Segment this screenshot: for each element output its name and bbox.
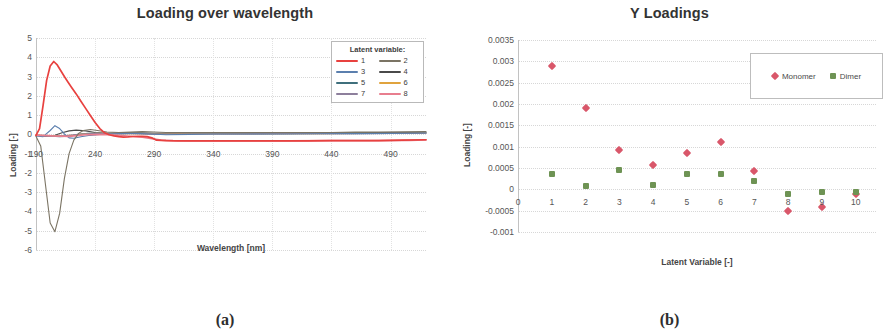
data-point-dimer-4	[650, 182, 656, 188]
legend-line-swatch-icon	[379, 93, 401, 95]
y-tick-label: 4	[27, 52, 36, 62]
legend-label: 7	[361, 89, 365, 98]
data-point-dimer-5	[684, 171, 690, 177]
x-axis-title-b: Latent Variable [-]	[518, 257, 876, 267]
legend-label: 4	[404, 67, 408, 76]
legend-label-dimer: Dimer	[840, 72, 861, 81]
data-point-dimer-3	[616, 167, 622, 173]
y-tick-label: 0	[509, 184, 518, 194]
data-point-dimer-2	[583, 183, 589, 189]
x-tick-label: 10	[851, 197, 860, 207]
y-tick-label: 0	[27, 129, 36, 139]
panel-a-loading-over-wavelength: Loading over wavelength Loading [-] 5432…	[0, 0, 450, 335]
gridline-horizontal	[518, 104, 876, 105]
y-tick-label: -3	[24, 187, 36, 197]
x-tick-label: 5	[684, 197, 689, 207]
y-axis-title-b: Loading [-]	[462, 110, 472, 180]
y-tick-label: -6	[24, 245, 36, 255]
data-point-dimer-1	[549, 171, 555, 177]
legend-items-a: 12345678	[336, 56, 419, 98]
legend-b[interactable]: Monomer Dimer	[750, 53, 883, 99]
legend-line-swatch-icon	[336, 71, 358, 73]
dimer-marker-icon	[830, 73, 836, 79]
legend-line-swatch-icon	[379, 60, 401, 62]
legend-label: 1	[361, 56, 365, 65]
legend-item-lv-6[interactable]: 6	[379, 78, 420, 87]
legend-title-a: Latent variable:	[336, 45, 419, 54]
y-tick-label: 1	[27, 110, 36, 120]
panel-a-caption: (a)	[0, 311, 450, 329]
legend-item-lv-3[interactable]: 3	[336, 67, 377, 76]
x-tick-label: 2	[583, 197, 588, 207]
legend-label: 8	[404, 89, 408, 98]
y-tick-label: 5	[27, 33, 36, 43]
legend-line-swatch-icon	[379, 82, 401, 84]
gridline-horizontal	[518, 40, 876, 41]
data-point-dimer-6	[718, 171, 724, 177]
legend-item-lv-4[interactable]: 4	[379, 67, 420, 76]
legend-label-monomer: Monomer	[782, 72, 816, 81]
legend-item-lv-8[interactable]: 8	[379, 89, 420, 98]
y-tick-label: 0.0005	[488, 163, 518, 173]
legend-item-lv-1[interactable]: 1	[336, 56, 377, 65]
y-tick-label: -5	[24, 226, 36, 236]
y-tick-label: 0.003	[493, 56, 518, 66]
data-point-dimer-10	[853, 189, 859, 195]
figure-container: Loading over wavelength Loading [-] 5432…	[0, 0, 889, 335]
legend-label: 5	[361, 78, 365, 87]
y-tick-label: 3	[27, 72, 36, 82]
y-tick-label: 0.001	[493, 142, 518, 152]
y-tick-label: 2	[27, 91, 36, 101]
y-tick-label: -0.001	[490, 227, 518, 237]
line-series-2	[36, 130, 426, 232]
gridline-horizontal	[518, 168, 876, 169]
chart-title-b: Y Loadings	[450, 0, 889, 26]
y-tick-label: -2	[24, 168, 36, 178]
legend-label: 3	[361, 67, 365, 76]
legend-a[interactable]: Latent variable: 12345678	[331, 41, 424, 103]
panel-b-y-loadings: Y Loadings Loading [-] 0.00350.0030.0025…	[450, 0, 889, 335]
legend-label: 6	[404, 78, 408, 87]
y-axis-title-a: Loading [-]	[8, 120, 18, 190]
legend-line-swatch-icon	[336, 82, 358, 84]
x-tick-label: 7	[752, 197, 757, 207]
y-tick-label: 0.0035	[488, 35, 518, 45]
y-tick-label: -0.0005	[485, 206, 518, 216]
legend-item-dimer[interactable]: Dimer	[830, 72, 861, 81]
legend-item-lv-2[interactable]: 2	[379, 56, 420, 65]
y-tick-label: 0.0025	[488, 78, 518, 88]
y-tick-label: -4	[24, 206, 36, 216]
chart-title-a: Loading over wavelength	[0, 0, 450, 26]
legend-label: 2	[404, 56, 408, 65]
legend-line-swatch-icon	[336, 93, 358, 95]
legend-item-lv-5[interactable]: 5	[336, 78, 377, 87]
monomer-marker-icon	[771, 72, 779, 80]
legend-item-monomer[interactable]: Monomer	[772, 72, 816, 81]
x-tick-label: 8	[786, 197, 791, 207]
y-tick-label: 0.002	[493, 99, 518, 109]
x-tick-label: 1	[549, 197, 554, 207]
legend-line-swatch-icon	[379, 71, 401, 73]
gridline-horizontal	[518, 147, 876, 148]
gridline-horizontal	[518, 125, 876, 126]
data-point-dimer-7	[751, 178, 757, 184]
gridline-horizontal	[518, 232, 876, 233]
x-tick-label: 4	[651, 197, 656, 207]
x-tick-label: 6	[718, 197, 723, 207]
legend-item-lv-7[interactable]: 7	[336, 89, 377, 98]
y-tick-label: 0.0015	[488, 120, 518, 130]
legend-line-swatch-icon	[336, 60, 358, 62]
x-tick-label: 0	[516, 197, 521, 207]
x-tick-label: 9	[820, 197, 825, 207]
data-point-dimer-9	[819, 189, 825, 195]
panel-b-caption: (b)	[450, 311, 889, 329]
x-tick-label: 3	[617, 197, 622, 207]
